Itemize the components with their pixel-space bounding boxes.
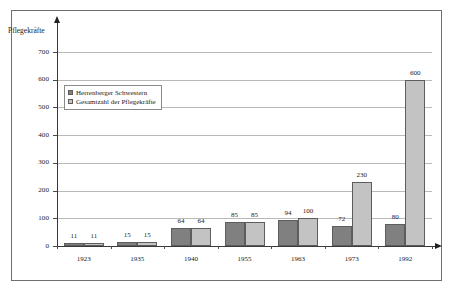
- y-tick-label: 100: [15, 215, 49, 222]
- gridline: [57, 163, 432, 164]
- gridline: [57, 135, 432, 136]
- bar-value-label: 64: [185, 218, 217, 225]
- arrow-up-icon: [54, 16, 60, 23]
- bar[interactable]: [84, 243, 104, 246]
- bar-chart: Pflegekräfte 0100200300400500600700 1111…: [0, 0, 455, 292]
- legend-label: Gesamtzahl der Pflegekräfte: [76, 98, 156, 106]
- y-tick-label: 200: [15, 187, 49, 194]
- legend-swatch-icon: [68, 90, 73, 95]
- bar-value-label: 230: [346, 172, 378, 179]
- bar[interactable]: [298, 218, 318, 246]
- bar-value-label: 15: [131, 232, 163, 239]
- y-tick-label: 600: [15, 76, 49, 83]
- bar[interactable]: [245, 222, 265, 246]
- x-tick-mark: [325, 246, 326, 249]
- bar-value-label: 85: [239, 212, 271, 219]
- y-axis-line: [57, 22, 58, 247]
- x-tick-mark: [218, 246, 219, 249]
- x-tick-label: 1973: [332, 255, 372, 263]
- legend-item-0[interactable]: Herrenberger Schwestern: [68, 88, 156, 97]
- x-tick-label: 1963: [278, 255, 318, 263]
- x-tick-label: 1935: [117, 255, 157, 263]
- bar[interactable]: [117, 242, 137, 246]
- bar[interactable]: [278, 220, 298, 246]
- y-tick-label: 500: [15, 104, 49, 111]
- legend-swatch-icon: [68, 99, 73, 104]
- bar[interactable]: [171, 228, 191, 246]
- bar[interactable]: [137, 242, 157, 246]
- y-tick-label: 400: [15, 132, 49, 139]
- x-tick-mark: [378, 246, 379, 249]
- x-tick-mark: [111, 246, 112, 249]
- chart-legend: Herrenberger Schwestern Gesamtzahl der P…: [64, 85, 162, 110]
- bar[interactable]: [385, 224, 405, 246]
- bar-value-label: 600: [399, 70, 431, 77]
- x-axis-line: [57, 246, 436, 247]
- arrow-right-icon: [435, 243, 442, 249]
- x-tick-mark: [164, 246, 165, 249]
- legend-item-1[interactable]: Gesamtzahl der Pflegekräfte: [68, 97, 156, 106]
- gridline: [57, 191, 432, 192]
- bar[interactable]: [405, 80, 425, 246]
- bar-value-label: 100: [292, 208, 324, 215]
- bar[interactable]: [352, 182, 372, 246]
- x-tick-label: 1940: [171, 255, 211, 263]
- y-axis-title: Pflegekräfte: [8, 27, 45, 35]
- bar[interactable]: [64, 243, 84, 246]
- y-tick-label: 300: [15, 159, 49, 166]
- y-tick-label: 700: [15, 49, 49, 56]
- bar[interactable]: [225, 222, 245, 246]
- bar-value-label: 11: [78, 233, 110, 240]
- x-tick-label: 1923: [64, 255, 104, 263]
- x-tick-mark: [57, 246, 58, 249]
- chart-page: Pflegekräfte 0100200300400500600700 1111…: [0, 0, 455, 292]
- gridline: [57, 52, 432, 53]
- x-tick-label: 1955: [225, 255, 265, 263]
- x-tick-mark: [432, 246, 433, 249]
- y-tick-label: 0: [15, 243, 49, 250]
- legend-label: Herrenberger Schwestern: [76, 89, 147, 97]
- x-tick-label: 1992: [385, 255, 425, 263]
- bar[interactable]: [191, 228, 211, 246]
- bar[interactable]: [332, 226, 352, 246]
- gridline: [57, 80, 432, 81]
- x-tick-mark: [271, 246, 272, 249]
